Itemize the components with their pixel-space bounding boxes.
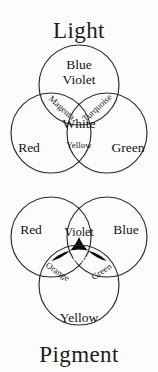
light-diagram: Light Blue Violet Red Green Magenta Turq… (11, 18, 147, 173)
light-title: Light (53, 18, 105, 43)
pigment-label-black-center: Black (63, 251, 95, 266)
pigment-label-red: Red (20, 222, 42, 237)
light-label-yellow: Yellow (66, 140, 92, 150)
light-label-violet: Violet (63, 72, 96, 87)
pigment-label-blue: Blue (113, 222, 139, 237)
color-mixing-figure: Light Blue Violet Red Green Magenta Turq… (0, 0, 158, 372)
venn-diagram-canvas: Light Blue Violet Red Green Magenta Turq… (0, 0, 158, 372)
pigment-title: Pigment (39, 342, 119, 367)
light-label-red: Red (18, 140, 40, 155)
light-label-green: Green (112, 140, 145, 155)
pigment-diagram: Red Blue Yellow Violet Orange Green Blac… (11, 197, 147, 367)
pigment-label-violet: Violet (64, 225, 94, 239)
light-label-white-center: White (63, 116, 96, 131)
light-label-blue: Blue (66, 57, 92, 72)
pigment-label-yellow: Yellow (60, 310, 99, 325)
